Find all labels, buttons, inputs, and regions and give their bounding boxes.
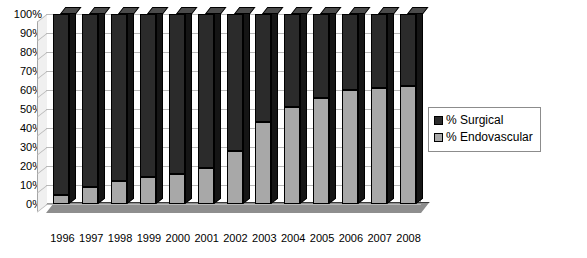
- bar-segment-surgical: [140, 14, 156, 177]
- bar-side-face: [358, 9, 365, 204]
- bar-side-face: [243, 9, 250, 204]
- bar-segment-endovascular: [255, 122, 271, 204]
- bar-segment-endovascular: [400, 86, 416, 204]
- bar-side-face: [387, 9, 394, 204]
- bar-segment-surgical: [227, 14, 243, 151]
- bar-group: [255, 14, 271, 204]
- bar-top-face: [378, 7, 399, 14]
- x-tick-label: 1997: [77, 232, 106, 244]
- bar-segment-surgical: [342, 14, 358, 90]
- bar-group: [371, 14, 387, 204]
- bar-group: [342, 14, 358, 204]
- bar-group: [111, 14, 127, 204]
- bar-segment-surgical: [198, 14, 214, 168]
- bar-side-face: [416, 9, 423, 204]
- x-tick-label: 2003: [250, 232, 279, 244]
- bar-segment-endovascular: [169, 174, 185, 204]
- bar-top-face: [262, 7, 283, 14]
- x-tick-label: 2000: [163, 232, 192, 244]
- bar-group: [169, 14, 185, 204]
- bar-top-face: [349, 7, 370, 14]
- x-tick-label: 2001: [192, 232, 221, 244]
- bar-group: [82, 14, 98, 204]
- stacked-bar-chart: 0%10%20%30%40%50%60%70%80%90%100% 199619…: [0, 0, 587, 258]
- legend-swatch-endovascular: [434, 133, 443, 142]
- bar-side-face: [69, 9, 76, 204]
- x-tick-label: 1999: [135, 232, 164, 244]
- legend-label-endovascular: % Endovascular: [446, 131, 533, 144]
- bar-top-face: [320, 7, 341, 14]
- bar-segment-endovascular: [284, 107, 300, 204]
- bars-layer: [46, 14, 421, 204]
- bar-segment-endovascular: [342, 90, 358, 204]
- bar-top-face: [176, 7, 197, 14]
- chart-legend: % Surgical % Endovascular: [428, 107, 541, 152]
- bar-group: [400, 14, 416, 204]
- bar-top-face: [89, 7, 110, 14]
- x-tick-label: 2002: [221, 232, 250, 244]
- bar-group: [284, 14, 300, 204]
- bar-segment-endovascular: [111, 181, 127, 204]
- y-tick-label: 100%: [14, 9, 42, 20]
- bar-top-face: [205, 7, 226, 14]
- x-tick-label: 2008: [394, 232, 423, 244]
- bar-group: [198, 14, 214, 204]
- bar-group: [140, 14, 156, 204]
- bar-top-face: [407, 7, 428, 14]
- legend-item-endovascular: % Endovascular: [434, 129, 533, 146]
- bar-segment-surgical: [53, 14, 69, 195]
- bar-side-face: [127, 9, 134, 204]
- bar-segment-surgical: [400, 14, 416, 86]
- bar-side-face: [300, 9, 307, 204]
- bar-segment-endovascular: [198, 168, 214, 204]
- bar-segment-surgical: [111, 14, 127, 181]
- bar-side-face: [98, 9, 105, 204]
- x-tick-label: 2006: [336, 232, 365, 244]
- bar-segment-surgical: [284, 14, 300, 107]
- bar-top-face: [60, 7, 81, 14]
- bar-side-face: [329, 9, 336, 204]
- x-tick-label: 1998: [106, 232, 135, 244]
- plot-area: [46, 14, 421, 204]
- bar-segment-endovascular: [82, 187, 98, 204]
- bar-segment-endovascular: [313, 98, 329, 204]
- x-tick-label: 2004: [279, 232, 308, 244]
- x-tick-label: 2007: [365, 232, 394, 244]
- x-tick-label: 1996: [48, 232, 77, 244]
- bar-segment-endovascular: [227, 151, 243, 204]
- bar-segment-surgical: [255, 14, 271, 122]
- bar-segment-surgical: [169, 14, 185, 174]
- bar-segment-surgical: [313, 14, 329, 98]
- bar-group: [227, 14, 243, 204]
- bar-top-face: [291, 7, 312, 14]
- gridline: [46, 204, 421, 205]
- x-axis: 1996199719981999200020012002200320042005…: [46, 232, 431, 248]
- bar-segment-endovascular: [53, 195, 69, 205]
- bar-segment-surgical: [82, 14, 98, 187]
- bar-top-face: [118, 7, 139, 14]
- x-tick-label: 2005: [308, 232, 337, 244]
- bar-group: [53, 14, 69, 204]
- bar-segment-surgical: [371, 14, 387, 88]
- bar-group: [313, 14, 329, 204]
- legend-swatch-surgical: [434, 116, 443, 125]
- bar-side-face: [185, 9, 192, 204]
- bar-side-face: [214, 9, 221, 204]
- bar-top-face: [147, 7, 168, 14]
- bar-top-face: [234, 7, 255, 14]
- legend-label-surgical: % Surgical: [446, 114, 503, 127]
- bar-side-face: [156, 9, 163, 204]
- bar-segment-endovascular: [371, 88, 387, 204]
- bar-segment-endovascular: [140, 177, 156, 204]
- bar-side-face: [271, 9, 278, 204]
- legend-item-surgical: % Surgical: [434, 112, 533, 129]
